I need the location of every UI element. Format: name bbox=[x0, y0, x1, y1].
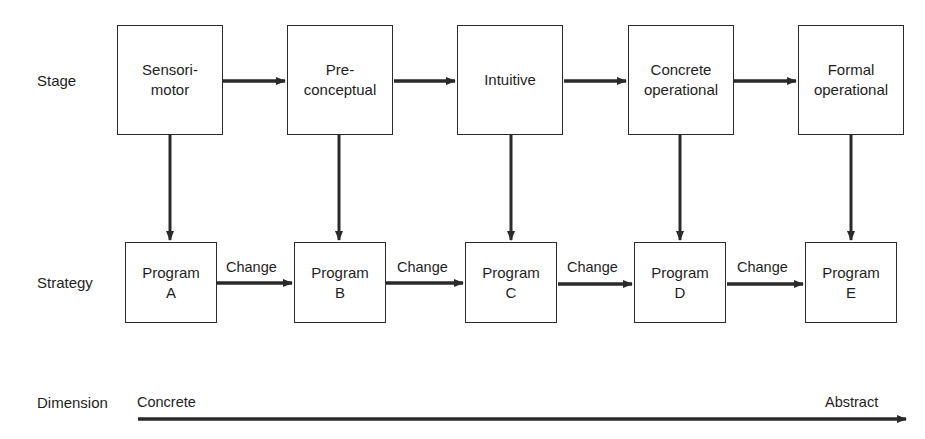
program-box-e: Program E bbox=[805, 242, 897, 323]
program-box-b: Program B bbox=[294, 242, 386, 323]
dimension-start-label: Concrete bbox=[137, 394, 196, 410]
stage-label-line1: Pre- bbox=[326, 60, 354, 80]
change-label-d-e: Change bbox=[737, 259, 788, 275]
program-label: Program bbox=[822, 263, 880, 283]
stage-box-intuitive: Intuitive bbox=[457, 25, 563, 135]
change-label-b-c: Change bbox=[397, 259, 448, 275]
program-label: Program bbox=[142, 263, 200, 283]
stage-label-line2: motor bbox=[151, 80, 189, 100]
stage-to-program-arrows bbox=[170, 135, 851, 240]
program-box-a: Program A bbox=[125, 242, 217, 323]
dimension-end-label: Abstract bbox=[825, 394, 878, 410]
stage-label-line1: Sensori- bbox=[142, 60, 198, 80]
program-letter: A bbox=[166, 283, 176, 303]
row-label-dimension: Dimension bbox=[37, 394, 108, 411]
row-label-strategy: Strategy bbox=[37, 274, 93, 291]
stage-label-line1: Formal bbox=[828, 60, 875, 80]
change-label-a-b: Change bbox=[226, 259, 277, 275]
stage-label-line1: Concrete bbox=[651, 60, 712, 80]
program-letter: D bbox=[675, 283, 686, 303]
stage-label-line2: operational bbox=[814, 80, 888, 100]
stage-box-concrete-operational: Concrete operational bbox=[628, 25, 734, 135]
program-letter: B bbox=[335, 283, 345, 303]
program-label: Program bbox=[651, 263, 709, 283]
program-letter: E bbox=[846, 283, 856, 303]
row-label-stage: Stage bbox=[37, 72, 76, 89]
stage-box-sensorimotor: Sensori- motor bbox=[117, 25, 223, 135]
program-label: Program bbox=[311, 263, 369, 283]
stage-label-line2: operational bbox=[644, 80, 718, 100]
program-letter: C bbox=[506, 283, 517, 303]
stage-label-line1: Intuitive bbox=[484, 70, 536, 90]
stage-box-formal-operational: Formal operational bbox=[798, 25, 904, 135]
change-label-c-d: Change bbox=[567, 259, 618, 275]
program-box-d: Program D bbox=[634, 242, 726, 323]
stage-box-preconceptual: Pre- conceptual bbox=[287, 25, 393, 135]
program-box-c: Program C bbox=[465, 242, 557, 323]
program-label: Program bbox=[482, 263, 540, 283]
stage-label-line2: conceptual bbox=[304, 80, 377, 100]
